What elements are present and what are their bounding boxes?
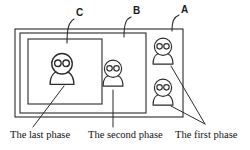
caption-last-phase: The last phase [10,129,70,140]
person-first-phase-top-icon [153,38,173,64]
person-first-phase-bottom-icon [153,79,173,105]
frame-b-rect [20,33,146,113]
label-a: A [181,4,188,15]
person-last-phase-icon [50,54,74,85]
label-b: B [133,5,140,16]
phase-diagram-figure: C B A [0,0,250,150]
diagram-canvas: C B A [0,0,250,150]
label-c: C [76,7,83,18]
person-second-phase-icon [103,60,123,86]
caption-second-phase: The second phase [88,129,163,140]
leader-line-b [124,17,131,37]
pointer-last-phase [33,86,64,127]
caption-first-phase: The first phase [175,129,238,140]
